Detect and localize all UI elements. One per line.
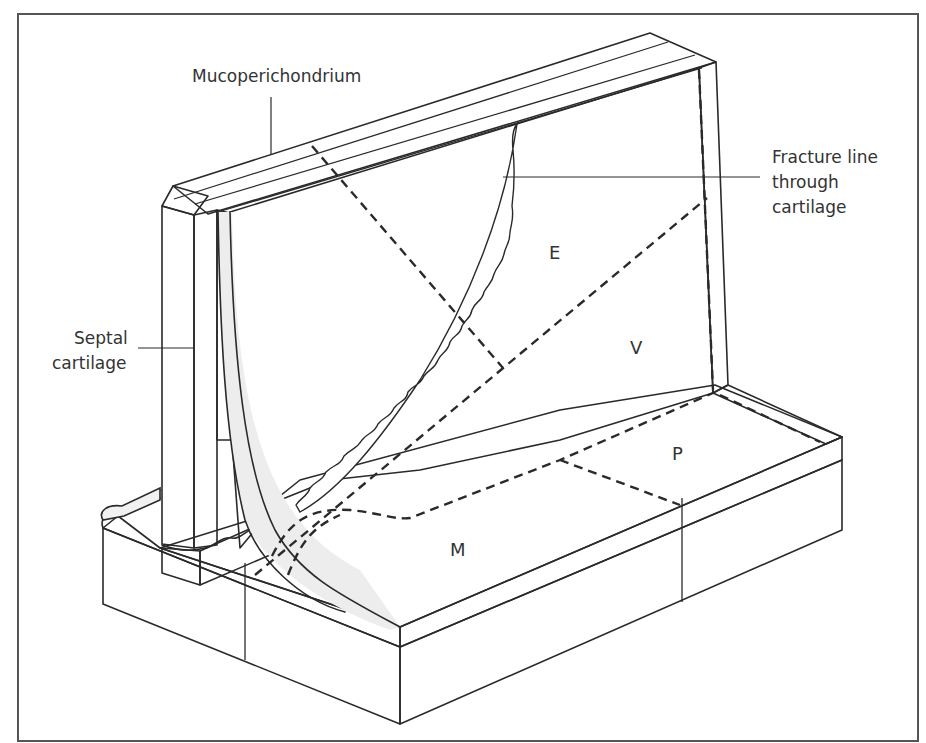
back-wall (173, 33, 842, 548)
region-label-V: V (630, 337, 643, 358)
label-fracture-line-2: through (772, 172, 839, 192)
label-fracture-line-1: Fracture line (772, 147, 878, 167)
label-fracture-line-3: cartilage (772, 197, 847, 217)
region-label-P: P (672, 443, 683, 464)
region-label-M: M (450, 539, 466, 560)
septal-fracture-diagram: Mucoperichondrium Fracture line through … (0, 0, 926, 743)
region-label-E: E (549, 242, 560, 263)
label-septal-2: cartilage (52, 353, 127, 373)
base-block (102, 385, 842, 724)
label-septal-1: Septal (74, 328, 128, 348)
label-mucoperichondrium: Mucoperichondrium (192, 66, 361, 86)
